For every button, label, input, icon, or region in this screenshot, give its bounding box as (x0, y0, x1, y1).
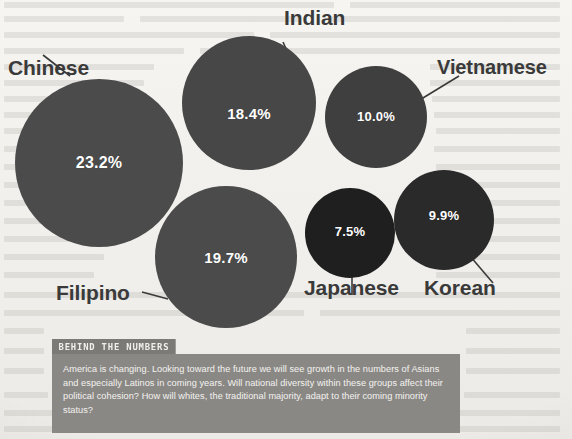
bubble-filipino[interactable]: 19.7% (155, 186, 297, 328)
leader-line-vietnamese (418, 76, 459, 101)
bubble-label-chinese: Chinese (8, 56, 89, 80)
bubble-value-filipino: 19.7% (204, 249, 248, 266)
behind-the-numbers-text: America is changing. Looking toward the … (63, 363, 449, 417)
bubble-value-vietnamese: 10.0% (357, 109, 395, 124)
page-background: 23.2% Chinese 19.7% Filipino 18.4% India… (0, 0, 572, 439)
bubble-chinese[interactable]: 23.2% (15, 79, 183, 247)
bubble-label-indian: Indian (284, 6, 345, 30)
bubble-value-chinese: 23.2% (76, 154, 122, 172)
bubble-indian[interactable]: 18.4% (182, 36, 316, 170)
bubble-label-korean: Korean (424, 276, 496, 300)
behind-the-numbers-body: America is changing. Looking toward the … (52, 354, 460, 433)
bubble-japanese[interactable]: 7.5% (305, 188, 395, 278)
bubble-vietnamese[interactable]: 10.0% (325, 66, 427, 168)
bubble-label-japanese: Japanese (304, 276, 399, 300)
bubble-value-japanese: 7.5% (335, 224, 365, 239)
bubble-label-vietnamese: Vietnamese (437, 56, 547, 79)
behind-the-numbers-badge: BEHIND THE NUMBERS (52, 339, 176, 354)
bubble-value-korean: 9.9% (429, 208, 459, 223)
bubble-label-filipino: Filipino (56, 281, 130, 305)
bubble-korean[interactable]: 9.9% (394, 170, 494, 270)
bubble-value-indian: 18.4% (227, 105, 271, 122)
behind-the-numbers-callout: BEHIND THE NUMBERS America is changing. … (52, 336, 458, 433)
